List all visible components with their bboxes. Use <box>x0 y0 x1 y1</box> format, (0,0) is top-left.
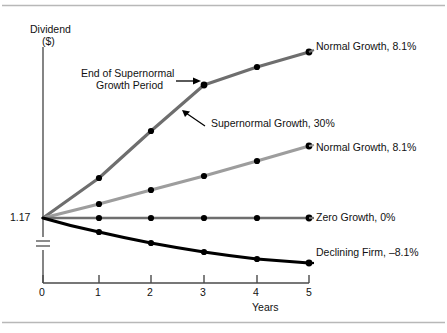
annotation-supernormal-growth: Supernormal Growth, 30% <box>211 117 335 129</box>
y-axis-label-line2: ($) <box>42 35 55 47</box>
x-tick-label-2: 2 <box>147 286 153 298</box>
series-label-supernormal-end: Normal Growth, 8.1% <box>316 40 416 52</box>
x-tick-label-5: 5 <box>306 286 312 298</box>
series-label-declining: Declining Firm, –8.1% <box>316 246 419 258</box>
series-line-normal <box>43 146 309 218</box>
y-axis-label-line1: Dividend <box>30 23 71 35</box>
x-tick-label-3: 3 <box>200 286 206 298</box>
x-axis-label: Years <box>252 301 278 313</box>
series-label-zero: Zero Growth, 0% <box>316 211 395 223</box>
label-stub-normal <box>309 145 314 146</box>
series-line-declining <box>43 218 309 263</box>
annotation-end-supernormal-line1: End of Supernormal <box>81 67 174 79</box>
series-label-normal: Normal Growth, 8.1% <box>316 141 416 153</box>
annotation-end-supernormal-line2: Growth Period <box>96 79 163 91</box>
y-axis-value-label: 1.17 <box>10 211 30 223</box>
supernormal-callout-leader <box>186 113 205 126</box>
supernormal-callout-arrow-head <box>182 110 190 117</box>
x-tick-label-0: 0 <box>39 286 45 298</box>
x-tick-label-1: 1 <box>95 286 101 298</box>
x-tick-label-4: 4 <box>253 286 259 298</box>
end-supernormal-arrow-head <box>193 78 201 85</box>
